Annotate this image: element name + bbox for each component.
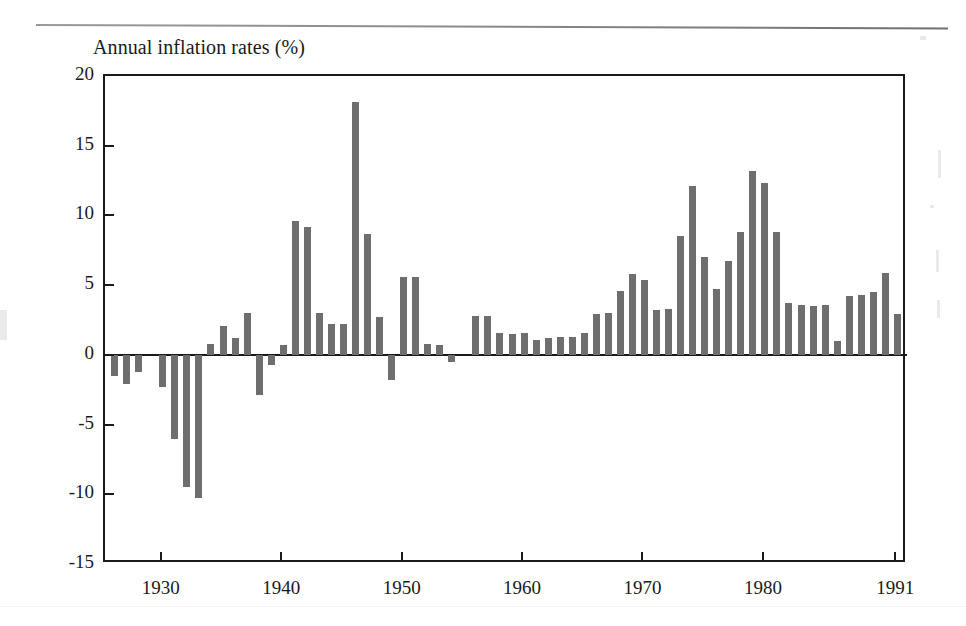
scan-speck <box>0 606 966 607</box>
scan-speck <box>937 300 940 318</box>
bar <box>484 316 491 355</box>
bar <box>280 345 287 355</box>
bar <box>569 337 576 355</box>
x-axis-tick <box>280 552 282 561</box>
page-divider-rule <box>36 24 948 30</box>
bar <box>304 227 311 355</box>
bar <box>773 232 780 355</box>
bar <box>232 338 239 355</box>
bar <box>400 277 407 355</box>
bar <box>424 344 431 355</box>
bar <box>677 236 684 355</box>
bar <box>195 355 202 499</box>
bar <box>629 274 636 355</box>
bar <box>737 232 744 355</box>
bar <box>810 306 817 355</box>
bar <box>436 345 443 355</box>
bar <box>412 277 419 355</box>
bar <box>521 333 528 355</box>
bar <box>388 355 395 380</box>
bar <box>207 344 214 355</box>
y-axis-tick-label: 20 <box>75 64 94 83</box>
bar <box>111 355 118 376</box>
bar <box>244 313 251 355</box>
y-axis-tick <box>105 424 114 426</box>
x-axis-tick <box>521 552 523 561</box>
bar <box>785 303 792 355</box>
y-axis-tick <box>105 145 114 147</box>
bar <box>533 340 540 355</box>
bar <box>870 292 877 355</box>
bar <box>846 296 853 355</box>
bar <box>135 355 142 372</box>
scanned-page: Annual inflation rates (%) 20151050-5-10… <box>0 0 966 626</box>
x-axis-tick <box>160 552 162 561</box>
bar <box>834 341 841 355</box>
bar <box>713 289 720 355</box>
bar <box>882 273 889 355</box>
bar <box>364 234 371 355</box>
bar <box>894 314 901 354</box>
y-axis-tick-label: 5 <box>85 273 95 292</box>
x-axis-tick <box>894 552 896 561</box>
y-axis-tick-label: -10 <box>69 482 94 501</box>
scan-speck <box>920 36 926 40</box>
bar <box>448 355 455 362</box>
bar <box>822 305 829 355</box>
bar <box>316 313 323 355</box>
y-axis-tick-label: -5 <box>78 413 94 432</box>
bar <box>641 280 648 355</box>
bar <box>292 221 299 355</box>
bar <box>761 183 768 354</box>
bar <box>220 326 227 355</box>
x-axis-tick-label: 1930 <box>131 578 191 597</box>
bar <box>509 334 516 355</box>
y-axis-labels: 20151050-5-10-15 <box>36 74 94 562</box>
scan-speck <box>0 310 7 340</box>
bar <box>858 295 865 355</box>
bar <box>496 333 503 355</box>
bar <box>183 355 190 487</box>
y-axis-tick <box>105 214 114 216</box>
bars-container <box>105 76 903 560</box>
bar <box>557 337 564 355</box>
x-axis-tick-label: 1980 <box>733 578 793 597</box>
y-axis-tick-label: 0 <box>85 343 95 362</box>
bar <box>725 261 732 354</box>
bar <box>593 314 600 354</box>
bar <box>123 355 130 384</box>
scan-speck <box>936 250 939 272</box>
x-axis-tick <box>762 552 764 561</box>
scan-speck <box>938 150 941 178</box>
bar <box>689 186 696 355</box>
bar <box>798 305 805 355</box>
bar <box>159 355 166 387</box>
x-axis-tick-label: 1960 <box>492 578 552 597</box>
bar <box>268 355 275 365</box>
x-axis-tick-label: 1950 <box>372 578 432 597</box>
bar <box>749 171 756 355</box>
x-axis-labels: 1930194019501960197019801991 <box>103 578 905 602</box>
x-axis-tick-label: 1940 <box>251 578 311 597</box>
x-axis-tick <box>641 552 643 561</box>
plot-area <box>103 74 905 562</box>
x-axis-tick-label: 1991 <box>865 578 925 597</box>
y-axis-tick <box>105 354 114 356</box>
bar <box>545 338 552 355</box>
x-axis-tick-label: 1970 <box>612 578 672 597</box>
y-axis-tick-label: 15 <box>75 134 94 153</box>
chart-title: Annual inflation rates (%) <box>93 36 305 59</box>
bar <box>701 257 708 355</box>
bar <box>328 324 335 355</box>
bar <box>376 317 383 355</box>
bar <box>256 355 263 395</box>
bar <box>581 333 588 355</box>
bar <box>617 291 624 355</box>
bar <box>352 102 359 354</box>
y-axis-tick-label: 10 <box>75 203 94 222</box>
x-axis-tick <box>401 552 403 561</box>
bar <box>665 309 672 355</box>
y-axis-tick <box>105 493 114 495</box>
bar <box>653 310 660 355</box>
bar <box>472 316 479 355</box>
